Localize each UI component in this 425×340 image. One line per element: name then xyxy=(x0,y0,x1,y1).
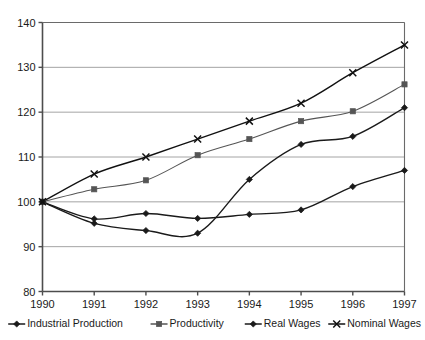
x-tick-label: 1994 xyxy=(237,298,261,310)
series-marker-productivity xyxy=(247,136,252,141)
series-marker-productivity xyxy=(298,119,303,124)
x-tick-label: 1996 xyxy=(341,298,365,310)
series-marker-industrial-production xyxy=(401,167,407,173)
y-tick-label: 90 xyxy=(23,241,35,253)
legend-marker-productivity xyxy=(156,321,161,326)
series-marker-industrial-production xyxy=(246,211,252,217)
series-marker-productivity xyxy=(402,82,407,87)
x-tick-label: 1993 xyxy=(185,298,209,310)
line-chart: 8090100110120130140 19901991199219931994… xyxy=(0,0,425,340)
series-marker-productivity xyxy=(92,187,97,192)
series-marker-productivity xyxy=(143,178,148,183)
legend-label-nominal-wages: Nominal Wages xyxy=(347,317,421,329)
series-marker-productivity xyxy=(195,153,200,158)
series-marker-industrial-production xyxy=(195,215,201,221)
series-marker-real-wages xyxy=(143,227,149,233)
y-tick-label: 80 xyxy=(23,286,35,298)
series-line-productivity xyxy=(43,84,405,201)
series-marker-real-wages xyxy=(298,141,304,147)
series-line-nominal-wages xyxy=(43,45,405,202)
x-tick-label: 1991 xyxy=(82,298,106,310)
series-marker-nominal-wages xyxy=(246,118,253,125)
series-marker-nominal-wages xyxy=(349,69,356,76)
series-marker-real-wages xyxy=(195,230,201,236)
chart-container: 8090100110120130140 19901991199219931994… xyxy=(0,0,425,340)
x-tick-label: 1995 xyxy=(289,298,313,310)
series-marker-nominal-wages xyxy=(194,136,201,143)
series-group xyxy=(43,45,405,237)
legend-marker-industrial-production xyxy=(14,321,20,327)
series-marker-nominal-wages xyxy=(91,171,98,178)
series-marker-real-wages xyxy=(91,220,97,226)
series-marker-industrial-production xyxy=(298,207,304,213)
x-tick-label: 1992 xyxy=(134,298,158,310)
legend-label-real-wages: Real Wages xyxy=(264,317,321,329)
series-line-industrial-production xyxy=(43,170,405,219)
series-marker-productivity xyxy=(350,109,355,114)
x-tick-label: 1990 xyxy=(30,298,54,310)
x-tick-label: 1997 xyxy=(392,298,416,310)
y-tick-label: 100 xyxy=(17,196,35,208)
series-marker-industrial-production xyxy=(350,183,356,189)
y-tick-label: 120 xyxy=(17,106,35,118)
legend-marker-real-wages xyxy=(250,321,256,327)
series-marker-real-wages xyxy=(350,133,356,139)
legend-group: Industrial ProductionProductivityReal Wa… xyxy=(8,317,421,329)
markers-group xyxy=(39,41,408,236)
legend-label-productivity: Productivity xyxy=(170,317,225,329)
series-marker-industrial-production xyxy=(143,210,149,216)
y-tick-label: 130 xyxy=(17,61,35,73)
series-marker-real-wages xyxy=(401,105,407,111)
y-tick-label: 110 xyxy=(18,151,36,163)
y-tick-label: 140 xyxy=(17,17,35,29)
legend-label-industrial-production: Industrial Production xyxy=(27,317,123,329)
y-tick-labels-group: 8090100110120130140 xyxy=(17,17,42,298)
x-tick-labels-group: 19901991199219931994199519961997 xyxy=(30,292,416,310)
gridlines-group xyxy=(43,23,405,247)
series-marker-nominal-wages xyxy=(298,100,305,107)
